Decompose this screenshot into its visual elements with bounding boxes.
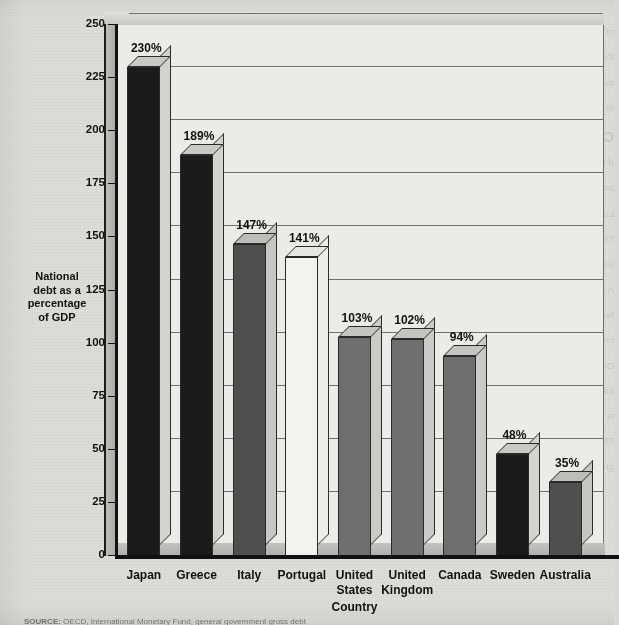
y-axis-tick-label: 200: [65, 123, 105, 135]
bar[interactable]: 103%: [338, 337, 371, 556]
y-axis-tick-label: 175: [65, 176, 105, 188]
bar-side-face: [266, 222, 277, 545]
y-axis-tick-label: 100: [65, 336, 105, 348]
y-axis-tick-label: 125: [65, 283, 105, 295]
bar-side-face: [318, 235, 329, 545]
source-prefix: SOURCE:: [24, 617, 61, 625]
y-axis-tick-label: 50: [65, 442, 105, 454]
y-axis-title-line: percentage: [16, 297, 98, 311]
x-axis-title: Country: [295, 600, 415, 614]
bar-front-face: [233, 244, 266, 556]
y-axis-title-line: of GDP: [16, 311, 98, 325]
y-axis-tick: [108, 343, 117, 344]
y-axis-tick-label: 0: [65, 548, 105, 560]
bar-side-face: [213, 133, 224, 545]
gridline: [129, 13, 603, 14]
bar-front-face: [180, 155, 213, 556]
y-axis-title-line: National: [16, 270, 98, 284]
y-axis-tick-label: 250: [65, 17, 105, 29]
plot-area: 230%189%147%141%103%102%94%48%35% 025507…: [117, 24, 591, 556]
x-axis-line: [115, 555, 619, 559]
gridline: [129, 66, 603, 67]
source-note: SOURCE: OECD, International Monetary Fun…: [24, 617, 584, 625]
bar-value-label: 230%: [131, 41, 162, 55]
bar[interactable]: 230%: [127, 67, 160, 556]
bar-value-label: 35%: [555, 456, 579, 470]
y-axis-tick: [108, 24, 117, 25]
y-axis-tick: [108, 555, 117, 556]
bar-value-label: 103%: [342, 311, 373, 325]
bar-side-face: [371, 315, 382, 545]
y-axis-tick: [108, 290, 117, 291]
bar[interactable]: 141%: [285, 257, 318, 556]
bar[interactable]: 102%: [391, 339, 424, 556]
y-axis-line: [115, 24, 118, 558]
bar-front-face: [127, 67, 160, 556]
bar-front-face: [391, 339, 424, 556]
y-axis-tick: [108, 236, 117, 237]
y-axis-tick-label: 150: [65, 229, 105, 241]
bar-front-face: [338, 337, 371, 556]
bar[interactable]: 94%: [443, 356, 476, 556]
bar-value-label: 147%: [236, 218, 267, 232]
bar-chart: 230%189%147%141%103%102%94%48%35% 025507…: [104, 12, 604, 568]
bar-front-face: [496, 454, 529, 556]
y-axis-tick: [108, 449, 117, 450]
y-axis-tick: [108, 502, 117, 503]
y-axis-tick-label: 225: [65, 70, 105, 82]
bar-side-face: [476, 334, 487, 545]
bar[interactable]: 189%: [180, 155, 213, 556]
y-axis-tick-label: 75: [65, 389, 105, 401]
bar-side-face: [424, 317, 435, 545]
bar-value-label: 48%: [502, 428, 526, 442]
bar[interactable]: 48%: [496, 454, 529, 556]
bar-value-label: 94%: [450, 330, 474, 344]
bar-side-face: [160, 45, 171, 545]
y-axis-tick: [108, 183, 117, 184]
y-axis-tick-label: 25: [65, 495, 105, 507]
y-axis-tick: [108, 130, 117, 131]
bar-value-label: 102%: [394, 313, 425, 327]
bar-front-face: [443, 356, 476, 556]
y-axis-title: National debt as a percentage of GDP: [16, 270, 98, 324]
bar-value-label: 141%: [289, 231, 320, 245]
bar-front-face: [549, 482, 582, 556]
bar-value-label: 189%: [184, 129, 215, 143]
y-axis-tick: [108, 77, 117, 78]
gridline: [129, 119, 603, 120]
bar[interactable]: 147%: [233, 244, 266, 556]
x-axis-category-label: Australia: [525, 568, 605, 583]
y-axis-tick: [108, 396, 117, 397]
source-text: OECD, International Monetary Fund, gener…: [61, 617, 306, 625]
bar[interactable]: 35%: [549, 482, 582, 556]
bar-front-face: [285, 257, 318, 556]
